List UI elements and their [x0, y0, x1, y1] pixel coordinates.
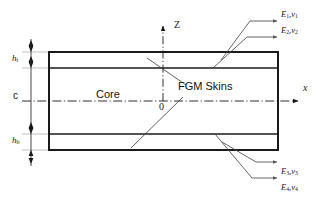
fgm-skins-label: FGM Skins: [178, 80, 232, 92]
arrow-bottom-inner-up: [29, 122, 34, 128]
material-callout-e4: E4,ν4: [281, 182, 298, 192]
e1-poisson-sub: 1: [295, 13, 298, 19]
origin-label: 0: [159, 101, 164, 112]
core-label: Core: [96, 88, 120, 100]
bottom-skin-thickness-label: hb: [12, 135, 20, 145]
material-callout-e1: E1,ν1: [281, 9, 298, 19]
e3-poisson-sub: 3: [295, 170, 298, 176]
top-skin-thickness-label: ht: [12, 53, 18, 63]
hb-subscript: b: [17, 139, 20, 145]
fgm-sandwich-beam-diagram: Core FGM Skins Z x 0 ht hb c E1,ν1 E2,ν2…: [0, 0, 318, 201]
e2-poisson-sub: 2: [295, 29, 298, 35]
x-axis-label: x: [303, 82, 307, 93]
core-thickness-label: c: [13, 90, 18, 101]
z-axis-label: Z: [174, 19, 180, 30]
e4-poisson-sub: 4: [295, 186, 298, 192]
arrow-top-inner-up: [29, 56, 34, 62]
arrow-top-outer-up: [29, 40, 34, 46]
material-callout-e2: E2,ν2: [281, 25, 298, 35]
arrow-bottom-outer-down: [29, 158, 34, 164]
material-callout-e3: E3,ν3: [281, 166, 298, 176]
ht-subscript: t: [17, 57, 19, 63]
arrow-top-outer-down: [29, 46, 34, 52]
arrow-bottom-inner-down: [29, 128, 34, 134]
arrow-bottom-outer-up: [29, 150, 34, 156]
arrow-top-inner-down: [29, 62, 34, 68]
